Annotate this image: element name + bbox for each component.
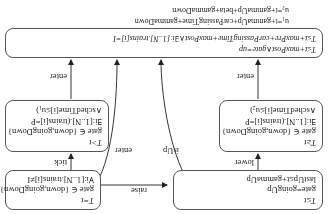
state-top-line-0: T≤t+maxPost∧gate=up <box>12 44 316 55</box>
state-going-up-line-0: T≤t <box>180 196 316 207</box>
state-going-up: T≤t gate=goingUp lastUp≤t+gammaUp <box>173 170 323 210</box>
state-init-line-2: ∀i:[1..N].trains[i]≠I <box>12 175 94 186</box>
edge-label-enter-init: enter <box>115 146 132 156</box>
state-wait-a-line-0: T>t <box>12 138 102 149</box>
state-diagram: T=t gate ∈ {down,goingDown} ∀i:[1..N].tr… <box>0 0 329 214</box>
state-wait-a-line-2: ∃i:[1..N].(trains[i]=P <box>12 117 102 128</box>
state-init: T=t gate ∈ {down,goingDown} ∀i:[1..N].tr… <box>5 170 101 210</box>
state-init-line-0: T=t <box>12 196 94 207</box>
edge-label-isup: isUp <box>163 146 179 156</box>
edge-label-enter-a: enter <box>50 72 67 82</box>
state-wait-a: T>t gate ∈ {down,goingDown} ∃i:[1..N].(t… <box>5 100 109 152</box>
state-wait-b-line-1: gate ∈ {down,goingDown} <box>226 127 316 138</box>
state-going-up-line-2: lastUp≤t+gammaUp <box>180 175 316 186</box>
state-wait-a-line-1: gate ∈ {down,goingDown} <box>12 127 102 138</box>
edge-isup <box>161 60 184 174</box>
state-wait-a-line-3: ∧schedTime[i]≤u₁) <box>12 106 102 117</box>
state-top: T≤t+maxPost∧gate=up T≤t+maxPre+carPassin… <box>5 28 323 58</box>
state-wait-b: T≥t gate ∈ {down,goingDown} ∃i:[1..N].(t… <box>219 100 323 152</box>
state-top-line-1: T≤t+maxPre+carPassingTime+maxPost∧∃i:[1.… <box>12 33 316 44</box>
definition-u2: u₂=t+gammaUp+beta+gammaDown <box>172 6 289 15</box>
edge-label-tick: tick <box>54 158 67 168</box>
state-wait-b-line-3: ∧schedTime[i]≤u₂) <box>226 106 316 117</box>
state-init-line-1: gate ∈ {down,goingDown} <box>12 185 94 196</box>
definition-u1: u₁=t+gammaUp+carPassingTime+gammaDown <box>135 17 289 26</box>
edge-label-lower: lower <box>235 158 254 168</box>
state-going-up-line-1: gate=goingUp <box>180 185 316 196</box>
state-wait-b-line-0: T≥t <box>226 138 316 149</box>
edge-label-enter-b: enter <box>237 72 254 82</box>
state-wait-b-line-2: ∃i:[1..N].(trains[i]=P <box>226 117 316 128</box>
edge-label-raise: raise <box>131 186 147 196</box>
